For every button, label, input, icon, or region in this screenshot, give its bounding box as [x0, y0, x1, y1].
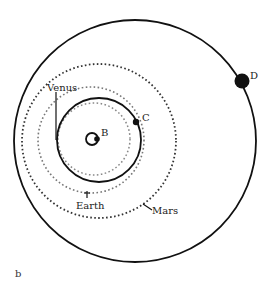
- label-point-b: B: [101, 127, 108, 138]
- label-earth: Earth: [76, 200, 105, 211]
- panel-label: b: [15, 268, 21, 279]
- earth-orbit: [38, 87, 144, 193]
- orbit-diagram: Venus Earth Mars B C D b: [0, 0, 275, 281]
- outer-solid-orbit: [14, 20, 256, 262]
- mars-leader-line: [143, 204, 152, 210]
- point-d-dot: [235, 74, 250, 89]
- label-point-d: D: [250, 70, 258, 81]
- label-point-c: C: [142, 112, 150, 123]
- label-venus: Venus: [46, 82, 77, 93]
- venus-orbit: [58, 103, 130, 175]
- label-mars: Mars: [152, 205, 178, 216]
- point-b-dot: [94, 136, 100, 142]
- point-c-dot: [133, 119, 139, 125]
